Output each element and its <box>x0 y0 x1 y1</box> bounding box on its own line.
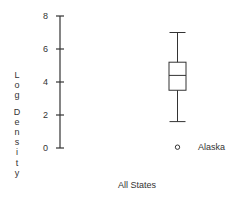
y-label-char: L <box>14 70 19 80</box>
y-label-char: i <box>16 147 18 157</box>
y-label-char: o <box>14 80 19 90</box>
y-label-char: s <box>15 137 20 147</box>
y-axis-label: LogDensity <box>14 70 21 178</box>
y-label-char: n <box>14 127 19 137</box>
y-axis: 02468 <box>43 11 64 153</box>
outlier-label: Alaska <box>198 142 225 152</box>
box-iqr <box>169 62 186 90</box>
y-label-char: y <box>15 168 20 178</box>
outlier-point <box>175 145 179 149</box>
y-label-char: g <box>14 90 19 100</box>
boxplot: Alaska <box>169 33 225 153</box>
boxplot-chart: 02468 LogDensity Alaska All States <box>0 0 237 199</box>
y-label-char: D <box>14 107 21 117</box>
y-tick-label-4: 4 <box>43 77 48 87</box>
x-axis-label: All States <box>118 180 157 190</box>
y-label-char: t <box>16 158 19 168</box>
y-tick-label-8: 8 <box>43 11 48 21</box>
y-label-char: e <box>14 117 19 127</box>
y-tick-label-2: 2 <box>43 110 48 120</box>
y-tick-label-6: 6 <box>43 44 48 54</box>
y-tick-label-0: 0 <box>43 143 48 153</box>
